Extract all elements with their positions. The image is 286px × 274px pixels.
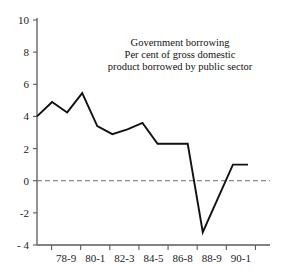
x-axis-tick-label: 82-3 [114, 252, 135, 264]
y-axis-tick-label: 2 [24, 143, 30, 155]
y-axis-tick-label: 10 [18, 14, 30, 26]
line-chart-canvas: 1086420-2- 478-980-182-384-586-888-990-1… [0, 0, 286, 274]
chart-title: Government borrowing [131, 37, 231, 48]
x-axis-tick-label: 78-9 [56, 252, 77, 264]
x-axis-tick-label: 90-1 [231, 252, 251, 264]
y-axis-tick-label: 6 [24, 78, 30, 90]
y-axis-tick-label: 4 [24, 110, 30, 122]
chart-figure: 1086420-2- 478-980-182-384-586-888-990-1… [0, 0, 286, 274]
y-axis-tick-label: -2 [20, 207, 29, 219]
chart-subtitle-line-1: Per cent of gross domestic [125, 49, 236, 60]
x-axis-tick-label: 88-9 [202, 252, 223, 264]
y-axis-tick-label: 0 [24, 175, 30, 187]
y-axis-tick-label: 8 [24, 46, 30, 58]
x-axis-tick-label: 80-1 [85, 252, 105, 264]
chart-subtitle-line-2: product borrowed by public sector [108, 61, 253, 72]
x-axis-tick-label: 84-5 [143, 252, 164, 264]
data-series-line [37, 93, 248, 232]
y-axis-tick-label: - 4 [17, 239, 29, 251]
x-axis-tick-label: 86-8 [173, 252, 194, 264]
